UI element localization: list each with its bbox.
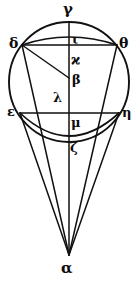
point-label-lambda: λ [53, 91, 62, 104]
point-label-beta: β [72, 73, 81, 86]
radius-line-delta-beta [22, 45, 69, 78]
point-label-gamma: γ [63, 2, 73, 17]
point-label-kappa: ϰ [71, 53, 80, 67]
point-label-zeta: ζ [70, 141, 78, 154]
cone-line-delta-alpha [22, 45, 69, 255]
point-label-theta: θ [119, 36, 128, 50]
point-label-iota: ι [72, 33, 78, 46]
point-label-epsilon: ε [7, 105, 15, 118]
point-label-delta: δ [9, 36, 18, 50]
cone-line-eta-alpha [69, 113, 119, 255]
point-label-eta: η [122, 106, 131, 119]
point-label-alpha: α [61, 261, 73, 276]
point-label-mu: μ [71, 116, 81, 129]
cone-line-epsilon-alpha [20, 113, 69, 255]
geometric-figure: γδθιϰβλεημζα [0, 0, 139, 283]
